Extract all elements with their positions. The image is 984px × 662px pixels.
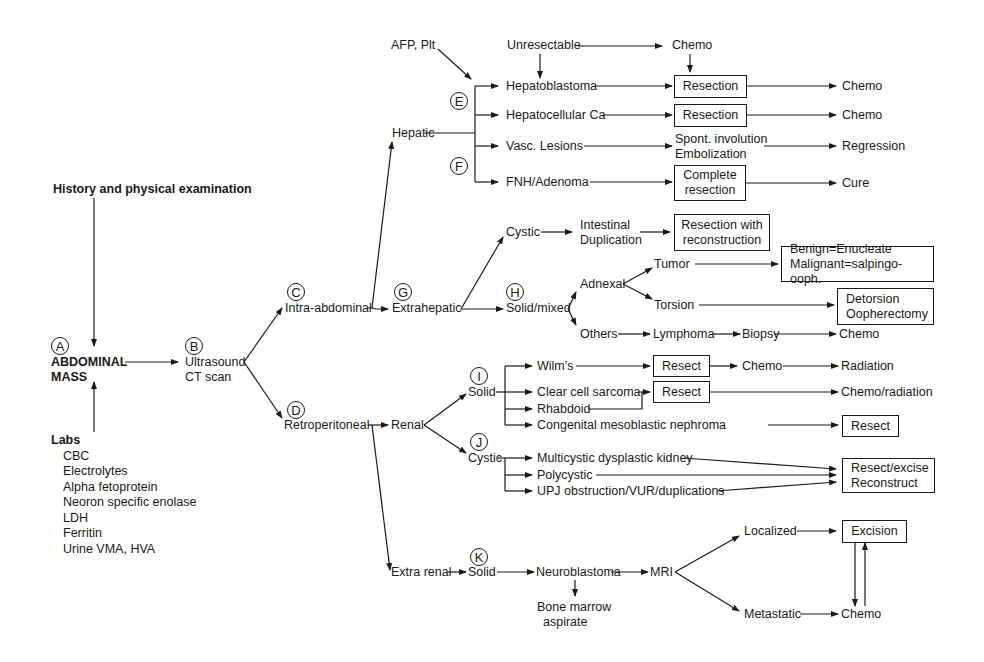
abdominal-mass-label-2: MASS [51, 370, 87, 385]
marker-b: B [185, 337, 203, 355]
abdominal-mass-label-1: ABDOMINAL [51, 355, 127, 370]
chemo-label: Chemo [842, 108, 882, 123]
mri-label: MRI [650, 565, 673, 580]
resection-box: Resection [674, 104, 747, 127]
resect-box: Resect [653, 355, 710, 377]
duplication-label: Duplication [580, 233, 642, 248]
box-line: Complete [683, 168, 737, 183]
aspirate-label: aspirate [543, 615, 587, 630]
chemo-label: Chemo [742, 359, 782, 374]
metastatic-label: Metastatic [744, 607, 801, 622]
marker-c: C [287, 283, 305, 301]
lab-item: Neoron specific enolase [51, 495, 196, 511]
benign-malignant-box: Benign=Enucleate Malignant=salpingo-ooph… [781, 246, 934, 282]
resection-box: Resection [674, 75, 747, 98]
mdk-label: Multicystic dysplastic kidney [537, 451, 693, 466]
ct-scan-label: CT scan [185, 370, 231, 385]
box-line: Resect/excise [851, 461, 929, 476]
complete-resection-box: Complete resection [674, 165, 746, 201]
cystic-label: Cystic [506, 225, 540, 240]
unresectable-label: Unresectable [507, 38, 581, 53]
lab-item: Electrolytes [51, 464, 196, 480]
ultrasound-label: Ultrasound [185, 355, 245, 370]
neuroblastoma-label: Neuroblastoma [536, 565, 621, 580]
chemo-label: Chemo [841, 607, 881, 622]
embolization-label: Embolization [675, 147, 747, 162]
abdominal-mass-flowchart: History and physical examination A ABDOM… [0, 0, 984, 662]
renal-solid-label: Solid [468, 385, 496, 400]
labs-list: Labs CBC Electrolytes Alpha fetoprotein … [51, 433, 196, 557]
polycystic-label: Polycystic [537, 468, 593, 483]
wilms-label: Wilm’s [537, 359, 574, 374]
torsion-label: Torsion [654, 298, 694, 313]
rhabdoid-label: Rhabdoid [537, 402, 591, 417]
resect-box: Resect [842, 415, 899, 437]
marker-a: A [51, 337, 69, 355]
excision-box: Excision [842, 520, 907, 543]
solid-mixed-label: Solid/mixed [506, 301, 571, 316]
detorsion-box: Detorsion Oopherectomy [837, 288, 934, 325]
marker-h: H [506, 283, 524, 301]
chemo-label: Chemo [842, 79, 882, 94]
box-line: reconstruction [683, 233, 762, 248]
box-line: Reconstruct [851, 476, 918, 491]
marker-g: G [394, 283, 412, 301]
adnexal-label: Adnexal [580, 277, 625, 292]
clear-cell-sarcoma-label: Clear cell sarcoma [537, 385, 641, 400]
extrarenal-solid-label: Solid [468, 565, 496, 580]
marker-d: D [287, 401, 305, 419]
chemo-radiation-label: Chemo/radiation [841, 385, 933, 400]
retroperitoneal-label: Retroperitoneal [284, 418, 369, 433]
marker-j: J [470, 433, 488, 451]
chemo-top-label: Chemo [672, 38, 712, 53]
tumor-label: Tumor [654, 257, 690, 272]
spont-involution-label: Spont. involution [675, 132, 767, 147]
box-line: Resection with [681, 218, 762, 233]
vasc-lesions-label: Vasc. Lesions [506, 139, 583, 154]
cmn-label: Congenital mesoblastic nephroma [537, 418, 726, 433]
box-line: Benign=Enucleate [790, 242, 892, 257]
lab-item: Alpha fetoprotein [51, 480, 196, 496]
extra-renal-label: Extra renal [391, 565, 451, 580]
renal-cystic-label: Cystic [468, 451, 502, 466]
marker-i: I [470, 367, 488, 385]
box-line: Oopherectomy [846, 307, 928, 322]
resect-excise-box: Resect/excise Reconstruct [842, 458, 935, 493]
afp-plt-label: AFP, Plt [391, 38, 435, 53]
lab-item: Ferritin [51, 526, 196, 542]
resection-reconstruction-box: Resection with reconstruction [674, 214, 770, 251]
cure-label: Cure [842, 176, 869, 191]
radiation-label: Radiation [841, 359, 894, 374]
intra-abdominal-label: Intra-abdominal [285, 301, 372, 316]
connector-lines [0, 0, 984, 662]
hepatoblastoma-label: Hepatoblastoma [506, 79, 597, 94]
regression-label: Regression [842, 139, 905, 154]
box-line: Detorsion [846, 292, 900, 307]
marker-f: F [450, 157, 468, 175]
renal-label: Renal [391, 418, 424, 433]
upj-label: UPJ obstruction/VUR/duplications [537, 484, 725, 499]
chemo-label: Chemo [839, 327, 879, 342]
lymphoma-label: Lymphoma [653, 327, 714, 342]
hepatic-label: Hepatic [392, 126, 434, 141]
fnh-adenoma-label: FNH/Adenoma [506, 175, 589, 190]
marker-k: K [470, 548, 488, 566]
extrahepatic-label: Extrahepatic [392, 301, 461, 316]
bone-marrow-label: Bone marrow [537, 600, 611, 615]
history-exam-label: History and physical examination [53, 182, 252, 197]
labs-title: Labs [51, 433, 196, 449]
others-label: Others [580, 327, 618, 342]
lab-item: CBC [51, 449, 196, 465]
box-line: Malignant=salpingo-ooph. [790, 257, 933, 287]
hepatocellular-label: Hepatocellular Ca [506, 108, 605, 123]
lab-item: Urine VMA, HVA [51, 542, 196, 558]
biopsy-label: Biopsy [742, 327, 780, 342]
resect-box: Resect [653, 381, 710, 403]
localized-label: Localized [744, 524, 797, 539]
box-line: resection [685, 183, 736, 198]
lab-item: LDH [51, 511, 196, 527]
intestinal-label: Intestinal [580, 218, 630, 233]
marker-e: E [450, 92, 468, 110]
